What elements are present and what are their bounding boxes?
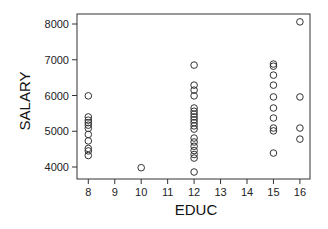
data-point-marker [297,136,304,143]
x-tick-label: 14 [241,186,253,198]
x-tick-label: 8 [85,186,91,198]
data-point-marker [270,94,277,101]
data-points [85,19,303,176]
y-tick-label: 7000 [45,54,69,66]
data-point-marker [270,82,277,89]
y-tick-label: 8000 [45,18,69,30]
x-tick-label: 12 [188,186,200,198]
y-axis-ticks: 40005000600070008000 [45,18,77,173]
x-tick-label: 11 [162,186,173,198]
data-point-marker [270,105,277,112]
data-point-marker [297,19,304,26]
y-tick-label: 4000 [45,161,69,173]
data-point-marker [138,164,145,171]
data-point-marker [191,169,198,176]
y-axis-label: SALARY [16,72,33,131]
y-tick-label: 5000 [45,125,69,137]
data-point-marker [297,94,304,101]
x-tick-label: 16 [294,186,306,198]
scatter-chart: 40005000600070008000 8910111213141516 ED… [0,0,328,229]
data-point-marker [270,115,277,122]
x-tick-label: 13 [214,186,226,198]
data-point-marker [270,72,277,79]
x-axis-label: EDUC [175,201,218,218]
data-point-marker [191,62,198,69]
data-point-marker [297,125,304,132]
data-point-marker [85,152,92,159]
data-point-marker [85,93,92,100]
x-tick-label: 15 [267,186,279,198]
data-point-marker [270,150,277,157]
x-tick-label: 10 [135,186,147,198]
x-axis-ticks: 8910111213141516 [85,179,306,198]
y-tick-label: 6000 [45,90,69,102]
x-tick-label: 9 [112,186,118,198]
data-point-marker [85,138,92,145]
